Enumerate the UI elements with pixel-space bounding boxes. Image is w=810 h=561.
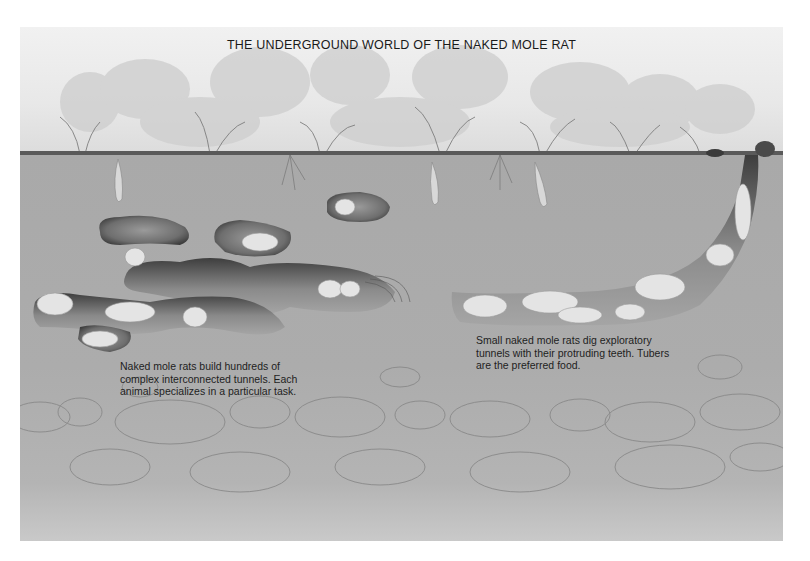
page-title: THE UNDERGROUND WORLD OF THE NAKED MOLE … bbox=[20, 38, 783, 52]
illustration: THE UNDERGROUND WORLD OF THE NAKED MOLE … bbox=[20, 27, 783, 541]
scene-artwork bbox=[20, 27, 783, 541]
caption-exploratory: Small naked mole rats dig exploratory tu… bbox=[476, 334, 676, 372]
caption-colony: Naked mole rats build hundreds of comple… bbox=[120, 360, 310, 398]
ground-line bbox=[20, 151, 783, 155]
vegetation bbox=[60, 45, 755, 147]
